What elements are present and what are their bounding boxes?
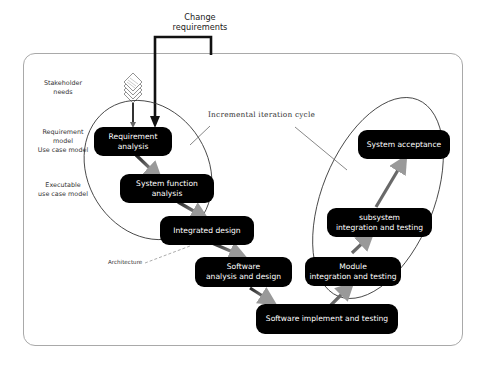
integrated-design-box: Integrated design xyxy=(160,216,254,245)
requirement-model-label: Requirement model Use case model xyxy=(28,128,98,155)
system-acceptance-box: System acceptance xyxy=(358,130,450,159)
incremental-iteration-cycle-label: Incremental iteration cycle xyxy=(208,110,315,119)
stakeholder-needs-label: Stakeholder needs xyxy=(28,79,98,97)
cycle-pointer-left xyxy=(190,126,210,145)
architecture-pointer xyxy=(145,246,190,263)
system-function-analysis-box: System function analysis xyxy=(120,174,214,203)
requirement-analysis-box: Requirement analysis xyxy=(94,127,172,156)
architecture-label: Architecture xyxy=(108,259,142,265)
change-requirements-label: Change requirements xyxy=(164,12,236,32)
executable-use-case-model-label: Executable use case model xyxy=(28,181,98,199)
module-integration-testing-box: Module integration and testing xyxy=(305,257,401,286)
cycle-pointer-right xyxy=(295,127,347,170)
software-implement-testing-box: Software implement and testing xyxy=(256,304,398,334)
document-stack-icon xyxy=(124,73,142,103)
software-analysis-design-box: Software analysis and design xyxy=(195,257,292,287)
stakeholder-needs-arrow xyxy=(130,103,136,128)
change-requirements-arrow xyxy=(150,37,211,128)
subsystem-integration-testing-box: subsystem integration and testing xyxy=(327,208,432,237)
